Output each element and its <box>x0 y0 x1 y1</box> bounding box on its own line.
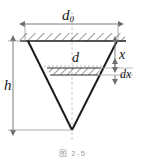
label-depth: x <box>119 48 125 62</box>
figure-caption: 图 2-5 <box>0 147 145 158</box>
dimension-h <box>8 41 72 130</box>
figure-container: d0 h d x dx 图 2-5 <box>0 0 145 163</box>
label-top-diameter-symbol: d <box>62 7 70 23</box>
label-strip-thickness: dx <box>120 68 131 80</box>
ground-hatching <box>20 33 126 41</box>
label-strip-diameter: d <box>72 51 79 65</box>
cone-cross-section-diagram <box>0 0 145 163</box>
label-top-diameter-subscript: 0 <box>70 14 75 24</box>
label-height: h <box>4 78 12 93</box>
elemental-strip <box>44 66 104 75</box>
label-top-diameter: d0 <box>62 8 74 24</box>
